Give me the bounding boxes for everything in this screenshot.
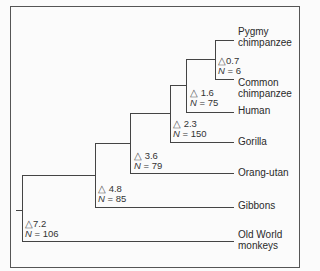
taxon-old-world-monkeys: Old World monkeys — [238, 230, 282, 251]
node-label-2-3: △ 2.3 N = 150 — [173, 119, 207, 139]
n-label: N — [218, 65, 225, 76]
taxon-pygmy-chimpanzee: Pygmy chimpanzee — [238, 27, 292, 48]
n-label: N — [98, 193, 105, 204]
taxon-label-line1: Common — [238, 78, 292, 88]
n-label: N — [190, 97, 197, 108]
taxon-label-line1: Orang-utan — [238, 168, 289, 178]
taxon-label-line2: chimpanzee — [238, 38, 292, 48]
taxon-gibbons: Gibbons — [238, 201, 275, 211]
taxon-label-line1: Human — [238, 106, 270, 116]
n-label: N — [25, 228, 32, 239]
node-label-0-7: △0.7 N = 6 — [218, 56, 241, 76]
taxon-orang-utan: Orang-utan — [238, 168, 289, 178]
n-value: = 85 — [108, 193, 127, 204]
n-value: = 79 — [144, 160, 163, 171]
node-label-4-8: △ 4.8 N = 85 — [98, 184, 126, 204]
taxon-label-line2: chimpanzee — [238, 89, 292, 99]
node-label-7-2: △7.2 N = 106 — [25, 219, 59, 239]
n-label: N — [173, 128, 180, 139]
taxon-label-line2: monkeys — [238, 241, 282, 251]
taxon-human: Human — [238, 106, 270, 116]
n-value: = 106 — [35, 228, 59, 239]
n-value: = 150 — [183, 128, 207, 139]
taxon-gorilla: Gorilla — [238, 137, 267, 147]
taxon-common-chimpanzee: Common chimpanzee — [238, 78, 292, 99]
n-value: = 75 — [200, 97, 219, 108]
taxon-label-line1: Old World — [238, 230, 282, 240]
taxon-label-line1: Gorilla — [238, 137, 267, 147]
node-label-3-6: △ 3.6 N = 79 — [134, 151, 162, 171]
n-value: = 6 — [228, 65, 241, 76]
n-label: N — [134, 160, 141, 171]
taxon-label-line1: Pygmy — [238, 27, 292, 37]
taxon-label-line1: Gibbons — [238, 201, 275, 211]
node-label-1-6: △ 1.6 N = 75 — [190, 88, 218, 108]
